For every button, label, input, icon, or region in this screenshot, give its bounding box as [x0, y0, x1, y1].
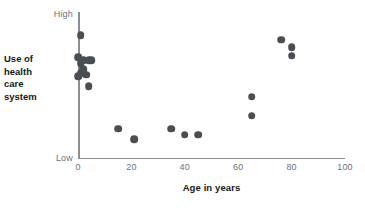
plot-area [78, 12, 345, 158]
x-axis-tick-label: 40 [180, 162, 190, 172]
x-axis-tick-label: 100 [337, 162, 353, 172]
data-point [74, 72, 82, 80]
x-axis-tick-label: 60 [233, 162, 243, 172]
y-axis-title-line-1: Use of [4, 53, 66, 66]
y-axis-title-line-3: care [4, 78, 66, 91]
y-axis-title-line-4: system [4, 91, 66, 104]
data-point [130, 135, 138, 143]
x-axis-title: Age in years [78, 182, 345, 193]
y-axis-title: Use of health care system [4, 53, 66, 103]
x-axis-tick-label: 0 [75, 162, 80, 172]
x-axis-tick-label: 80 [286, 162, 296, 172]
data-point [288, 52, 296, 60]
data-point [82, 71, 90, 79]
data-point [168, 125, 176, 133]
y-axis-title-line-2: health [4, 66, 66, 79]
scatter-chart-figure: Use of health care system High Low 02040… [0, 0, 365, 208]
data-point [85, 83, 93, 91]
data-point [288, 43, 296, 51]
data-point [248, 93, 256, 101]
y-axis-low-label: Low [56, 153, 73, 163]
y-axis-high-label: High [54, 9, 73, 19]
data-point [88, 56, 96, 64]
data-point [194, 131, 202, 139]
x-axis-tick-label: 20 [126, 162, 136, 172]
data-point [77, 32, 85, 40]
data-point [181, 131, 189, 139]
data-point [248, 112, 256, 120]
data-point [277, 36, 285, 44]
data-point [114, 125, 122, 133]
